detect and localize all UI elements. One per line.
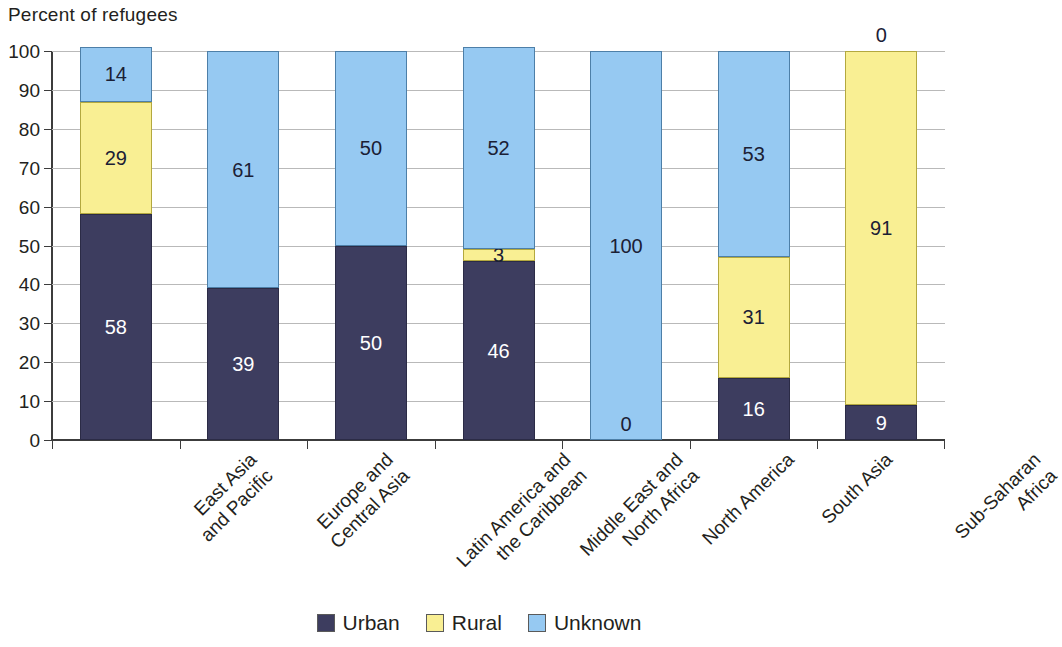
y-tick-label: 70 <box>19 158 40 177</box>
chart-legend: UrbanRuralUnknown <box>0 612 958 633</box>
y-tick-label: 40 <box>19 275 40 294</box>
legend-item-urban[interactable]: Urban <box>317 612 400 633</box>
x-axis-label-text: Europe andCentral Asia <box>309 448 414 553</box>
bar-segment-value-label: 16 <box>743 399 765 419</box>
y-tick-mark <box>44 51 52 52</box>
bar-segment-value-label: 50 <box>360 138 382 158</box>
bar-group[interactable]: 46352 <box>463 51 535 440</box>
bar-segment-rural[interactable]: 31 <box>718 257 790 378</box>
y-tick-mark <box>44 284 52 285</box>
legend-label: Unknown <box>554 612 642 633</box>
bar-segment-value-label: 39 <box>232 354 254 374</box>
legend-item-unknown[interactable]: Unknown <box>528 612 642 633</box>
x-axis-label-text: Sub-SaharanAfrica <box>950 448 1062 560</box>
x-axis-label-line: South Asia <box>816 448 897 529</box>
legend-swatch-unknown <box>528 614 546 632</box>
bar-segment-rural[interactable]: 29 <box>80 102 152 215</box>
y-tick-label: 10 <box>19 392 40 411</box>
bar-segment-value-label: 52 <box>487 138 509 158</box>
legend-label: Rural <box>452 612 502 633</box>
bar-segment-urban[interactable]: 9 <box>845 405 917 440</box>
x-axis-label-line: North America <box>697 448 799 550</box>
y-tick-label: 30 <box>19 314 40 333</box>
bar-segment-unknown[interactable]: 52 <box>463 47 535 249</box>
bar-group[interactable]: 163153 <box>718 51 790 440</box>
bar-segment-value-label: 100 <box>609 236 642 256</box>
bar-segment-urban[interactable]: 16 <box>718 378 790 440</box>
bar-segment-value-label: 31 <box>743 307 765 327</box>
bar-segment-unknown[interactable]: 53 <box>718 51 790 257</box>
y-tick-mark <box>44 207 52 208</box>
bar-segment-urban[interactable]: 46 <box>463 261 535 440</box>
y-tick-label: 60 <box>19 197 40 216</box>
y-tick-label: 100 <box>8 42 40 61</box>
y-tick-mark <box>44 440 52 441</box>
y-tick-label: 50 <box>19 236 40 255</box>
y-tick-mark <box>44 401 52 402</box>
bar-segment-value-label: 53 <box>743 144 765 164</box>
plot-area: 0102030405060708090100582914390615005046… <box>52 51 945 440</box>
bar-segment-value-label: 61 <box>232 160 254 180</box>
bar-group[interactable]: 50050 <box>335 51 407 440</box>
plot-frame: 0102030405060708090100582914390615005046… <box>52 51 945 440</box>
legend-label: Urban <box>343 612 400 633</box>
bar-segment-value-label: 0 <box>845 25 917 45</box>
bar-segment-unknown[interactable]: 14 <box>80 47 152 101</box>
y-tick-label: 90 <box>19 80 40 99</box>
bar-group[interactable]: 39061 <box>207 51 279 440</box>
bar-group[interactable]: 582914 <box>80 51 152 440</box>
x-axis-category-labels: East Asiaand PacificEurope andCentral As… <box>52 448 945 588</box>
bar-segment-unknown[interactable]: 50 <box>335 51 407 246</box>
bar-segment-value-label: 9 <box>876 413 887 433</box>
y-tick-label: 80 <box>19 119 40 138</box>
y-tick-mark <box>44 246 52 247</box>
x-axis-label-text: East Asiaand Pacific <box>179 448 277 546</box>
y-tick-mark <box>44 129 52 130</box>
y-tick-mark <box>44 362 52 363</box>
bar-segment-value-label: 29 <box>105 148 127 168</box>
x-axis-label-text: Middle East andNorth Africa <box>574 448 703 577</box>
y-tick-mark <box>44 323 52 324</box>
x-axis-label-text: South Asia <box>816 448 897 529</box>
legend-swatch-rural <box>426 614 444 632</box>
bar-segment-unknown[interactable]: 61 <box>207 51 279 288</box>
bar-segment-value-label: 91 <box>870 218 892 238</box>
bar-segment-urban[interactable]: 58 <box>80 214 152 440</box>
legend-item-rural[interactable]: Rural <box>426 612 502 633</box>
bar-group[interactable]: 1000 <box>590 51 662 440</box>
legend-swatch-urban <box>317 614 335 632</box>
y-tick-label: 0 <box>29 431 40 450</box>
y-tick-mark <box>44 90 52 91</box>
chart-title: Percent of refugees <box>8 4 178 26</box>
bar-segment-rural[interactable]: 3 <box>463 249 535 261</box>
bar-segment-rural[interactable]: 91 <box>845 51 917 405</box>
bar-segment-unknown[interactable]: 100 <box>590 51 662 440</box>
bar-segment-urban[interactable]: 39 <box>207 288 279 440</box>
bar-segment-value-label: 14 <box>105 64 127 84</box>
y-tick-mark <box>44 168 52 169</box>
bar-segment-value-label: 46 <box>487 341 509 361</box>
bar-segment-value-label: 58 <box>105 317 127 337</box>
y-tick-label: 20 <box>19 353 40 372</box>
x-axis-label-text: North America <box>697 448 799 550</box>
bar-segment-value-label: 50 <box>360 333 382 353</box>
bar-group[interactable]: 9910 <box>845 51 917 440</box>
x-axis-label-text: Latin America andthe Caribbean <box>451 448 591 588</box>
bar-segment-urban[interactable]: 50 <box>335 246 407 441</box>
